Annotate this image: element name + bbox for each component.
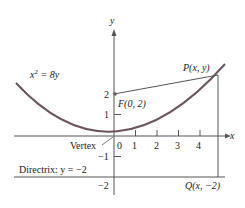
x-tick-label-4: 4 [196,140,201,151]
focus-point [113,92,117,96]
x-tick-label-2: 2 [154,140,159,151]
parabola-diagram: y x x2 = 8y P(x, y) F(0, 2) 2 1 −1 −2 0 … [0,0,245,208]
y-tick-label-1: 1 [104,109,109,120]
y-tick-label-2: 2 [104,89,109,100]
y-tick-label-neg1: −1 [98,151,109,162]
focus-label: F(0, 2) [117,98,146,110]
x-ticks [136,130,201,136]
point-p-label: P(x, y) [182,62,210,74]
point-q-label: Q(x, −2) [185,180,221,192]
x-tick-label-3: 3 [175,140,180,151]
y-axis-label: y [109,15,115,26]
directrix-label: Directrix: y = −2 [19,164,87,175]
x-tick-label-0: 0 [117,140,122,151]
y-axis-arrow-icon [112,29,117,36]
x-axis-label: x [229,130,235,141]
x-tick-label-1: 1 [132,140,137,151]
y-tick-label-neg2: −2 [98,180,109,191]
vertex-label: Vertex [70,140,96,151]
equation-label: x2 = 8y [29,68,60,80]
vertex-pointer [102,137,113,145]
segment-pf [114,75,218,94]
